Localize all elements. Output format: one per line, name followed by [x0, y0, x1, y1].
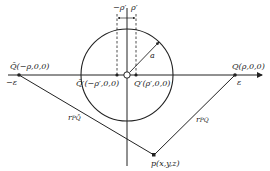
point-Q-prime: [134, 73, 137, 76]
label-r-PQ: rPQ: [196, 116, 209, 124]
diagram-canvas: −ρ′ ρ′ a Q̄(−ρ,0,0) −ε Q̄′(−ρ′,0,0) Q′(ρ…: [0, 0, 270, 171]
label-Q-bar-prime: Q̄′(−ρ′,0,0): [76, 80, 119, 88]
point-P: [152, 153, 156, 157]
label-Q-bar: Q̄(−ρ,0,0): [10, 63, 49, 71]
label-r-PQbar: rPQ̄: [68, 114, 81, 122]
label-Q-prime: Q′(ρ′,0,0): [134, 80, 170, 88]
label-epsilon: ε: [237, 79, 241, 87]
point-Q-bar-prime: [115, 73, 118, 76]
label-Q: Q(ρ,0,0): [232, 63, 265, 71]
label-radius-a: a: [150, 52, 155, 60]
label-minus-rho-prime: −ρ′: [113, 4, 126, 12]
label-rho-prime: ρ′: [131, 4, 138, 12]
center-marker: [124, 72, 130, 78]
label-minus-epsilon: −ε: [6, 79, 17, 87]
label-P: p(x,y,z): [151, 160, 180, 168]
